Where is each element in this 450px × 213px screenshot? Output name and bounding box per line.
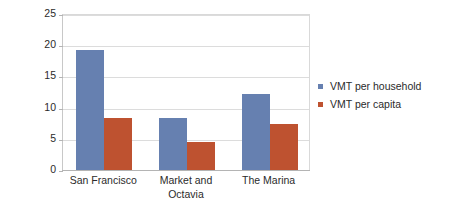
bar	[187, 142, 215, 170]
bar-chart: Average daily VMT 25 20 15 10 5 0 San Fr…	[0, 0, 450, 213]
x-category-label: San Francisco	[62, 174, 145, 188]
legend-item-vmt-per-capita: VMT per capita	[318, 96, 448, 112]
legend-label: VMT per capita	[330, 98, 401, 110]
legend-label: VMT per household	[330, 80, 421, 92]
bar	[76, 50, 104, 170]
y-tick-label: 5	[34, 133, 56, 144]
legend-swatch-icon	[318, 102, 323, 107]
bars-layer	[62, 14, 310, 170]
x-category-label-line: San Francisco	[62, 174, 145, 188]
chart-legend: VMT per household VMT per capita	[318, 78, 448, 114]
y-axis-tick-labels: 25 20 15 10 5 0	[34, 0, 56, 213]
x-axis-category-labels: San FranciscoMarket andOctaviaThe Marina	[62, 174, 310, 213]
y-tick-label: 15	[34, 70, 56, 81]
bar	[104, 118, 132, 170]
x-category-label-line: Octavia	[145, 188, 228, 202]
x-category-label: The Marina	[227, 174, 310, 188]
x-category-label-line: Market and	[145, 174, 228, 188]
bar	[270, 124, 298, 170]
bar	[159, 118, 187, 170]
y-tick-label: 0	[34, 164, 56, 175]
y-tick-label: 20	[34, 39, 56, 50]
y-tick-label: 25	[34, 8, 56, 19]
bar	[242, 94, 270, 170]
x-category-label-line: The Marina	[227, 174, 310, 188]
x-axis-line	[62, 170, 310, 171]
legend-item-vmt-per-household: VMT per household	[318, 78, 448, 94]
x-category-label: Market andOctavia	[145, 174, 228, 201]
y-tick-label: 10	[34, 102, 56, 113]
legend-swatch-icon	[318, 84, 323, 89]
y-axis-tick-mark	[59, 171, 63, 172]
